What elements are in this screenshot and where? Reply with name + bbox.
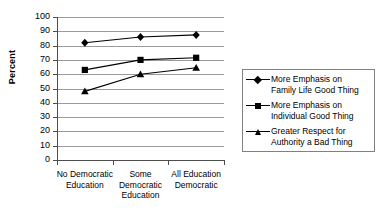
y-axis-tick-label: 10 xyxy=(28,141,50,150)
legend-item-authority[interactable]: Greater Respect for Authority a Bad Thin… xyxy=(245,126,371,147)
y-axis-tick-label: 60 xyxy=(28,69,50,78)
y-axis-tick-label: 40 xyxy=(28,98,50,107)
line-chart: Percent 1009080706050403020100 No Democr… xyxy=(0,0,380,218)
x-axis-tick xyxy=(57,161,58,165)
triangle-marker-icon xyxy=(245,127,271,137)
gridline xyxy=(57,74,224,75)
y-axis-tick-label: 70 xyxy=(28,55,50,64)
x-axis-category-label: All Education Democratic xyxy=(154,169,238,190)
legend-item-label: Greater Respect for Authority a Bad Thin… xyxy=(271,126,353,147)
x-axis-tick xyxy=(168,161,169,165)
y-axis-tick-label: 90 xyxy=(28,26,50,35)
gridline xyxy=(57,131,224,132)
y-axis-tick-label: 20 xyxy=(28,126,50,135)
gridline xyxy=(57,60,224,61)
legend-item-label: More Emphasis on Family Life Good Thing xyxy=(271,74,359,95)
gridline xyxy=(57,89,224,90)
y-axis-tick-label: 0 xyxy=(28,155,50,164)
y-axis-tick-label: 80 xyxy=(28,41,50,50)
legend-item-label: More Emphasis on Individual Good Thing xyxy=(271,100,354,121)
square-marker-icon xyxy=(245,101,271,111)
y-axis-line xyxy=(57,17,58,161)
gridline xyxy=(57,46,224,47)
diamond-marker-icon xyxy=(245,75,271,85)
gridline xyxy=(57,117,224,118)
plot-gridlines xyxy=(57,17,224,160)
gridline xyxy=(57,31,224,32)
y-axis-title: Percent xyxy=(7,37,17,97)
x-axis-tick xyxy=(113,161,114,165)
x-axis-line xyxy=(57,160,225,161)
legend-item-individual[interactable]: More Emphasis on Individual Good Thing xyxy=(245,100,371,121)
x-axis-tick xyxy=(224,161,225,165)
gridline xyxy=(57,17,224,18)
gridline xyxy=(57,103,224,104)
y-axis-tick-label: 50 xyxy=(28,84,50,93)
y-axis-tick-label: 30 xyxy=(28,112,50,121)
legend-item-family-life[interactable]: More Emphasis on Family Life Good Thing xyxy=(245,74,371,95)
y-axis-tick-label: 100 xyxy=(28,12,50,21)
gridline xyxy=(57,146,224,147)
chart-legend: More Emphasis on Family Life Good Thing … xyxy=(242,69,375,152)
